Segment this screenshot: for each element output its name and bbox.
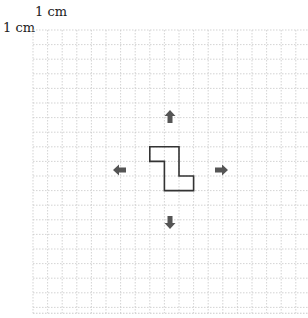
- arrow-up-icon: [165, 110, 176, 123]
- arrow-right-icon: [215, 165, 228, 176]
- shape-outline: [150, 147, 194, 191]
- grid-diagram: [0, 0, 308, 318]
- direction-arrows: [113, 110, 228, 229]
- arrow-down-icon: [165, 216, 176, 229]
- grid-lines: [33, 30, 308, 313]
- arrow-left-icon: [113, 165, 126, 176]
